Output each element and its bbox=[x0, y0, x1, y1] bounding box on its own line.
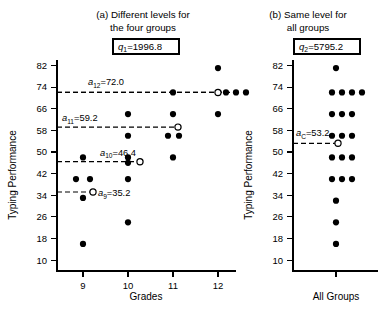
panel-b-y-tick-label: 82 bbox=[272, 60, 283, 71]
panel-b-data-point bbox=[339, 176, 345, 182]
panel-b-q-number: =5795.2 bbox=[308, 41, 343, 52]
panel-a-y-tick-label: 82 bbox=[36, 60, 47, 71]
panel-b-y-tick-label: 26 bbox=[272, 211, 283, 222]
panel-a-y-tick-label: 34 bbox=[36, 190, 47, 201]
panel-b-data-point bbox=[329, 154, 335, 160]
two-panel-dotplot-figure: (a) Different levels for the four groups… bbox=[0, 0, 382, 317]
panel-a-x-tick-label: 10 bbox=[123, 280, 134, 291]
panel-b-data-point bbox=[339, 133, 345, 139]
panel-a-group-mean-marker bbox=[90, 189, 96, 195]
panel-a-y-tick-label: 74 bbox=[36, 81, 47, 92]
panel-a-data-point bbox=[80, 154, 86, 160]
panel-a-ylabel: Typing Performance bbox=[7, 130, 18, 220]
figure-root: (a) Different levels for the four groups… bbox=[0, 0, 382, 317]
panel-b-data-point bbox=[333, 65, 339, 71]
panel-a-data-point bbox=[125, 111, 131, 117]
panel-b-title-line2: all groups bbox=[287, 22, 330, 33]
panel-b-y-tick-label: 10 bbox=[272, 255, 283, 266]
panel-b-data-point bbox=[329, 133, 335, 139]
panel-b-y-tick-label: 18 bbox=[272, 233, 283, 244]
panel-b-y-tick-label: 58 bbox=[272, 125, 283, 136]
panel-a-mean-label: a9=35.2 bbox=[98, 188, 130, 200]
panel-a-data-point bbox=[125, 219, 131, 225]
panel-b-data-point bbox=[339, 154, 345, 160]
panel-a-y-tick-label: 50 bbox=[36, 146, 47, 157]
panel-a-y-tick-label: 26 bbox=[36, 211, 47, 222]
panel-a-data-point bbox=[170, 111, 176, 117]
panel-a-data-point bbox=[170, 154, 176, 160]
panel-a-y-tick-label: 66 bbox=[36, 103, 47, 114]
panel-b-y-tick-label: 42 bbox=[272, 168, 283, 179]
panel-a-data-point bbox=[80, 241, 86, 247]
panel-a-data-point bbox=[215, 111, 221, 117]
panel-a-data-point bbox=[87, 176, 93, 182]
panel-a-group-mean-marker bbox=[215, 89, 221, 95]
panel-a-group-mean-marker bbox=[175, 124, 181, 130]
panel-a-y-tick-label: 42 bbox=[36, 168, 47, 179]
panel-b-data-point bbox=[333, 219, 339, 225]
panel-b-data-point bbox=[333, 198, 339, 204]
panel-a-q-number: =1996.8 bbox=[127, 41, 162, 52]
panel-b-data-point bbox=[333, 241, 339, 247]
panel-a-data-point bbox=[223, 89, 229, 95]
panel-a-q-box: q1=1996.8 bbox=[113, 39, 179, 54]
panel-b-data-point bbox=[349, 89, 355, 95]
panel-a-data-point bbox=[176, 133, 182, 139]
panel-a-data-point bbox=[73, 176, 79, 182]
panel-a-y-tick-label: 10 bbox=[36, 255, 47, 266]
panel-a-title-line2: the four groups bbox=[110, 22, 176, 33]
panel-b-y-tick-label: 34 bbox=[272, 190, 283, 201]
panel-a-data-point bbox=[125, 176, 131, 182]
panel-a-group-mean-marker bbox=[137, 159, 143, 165]
panel-b-data-point bbox=[349, 176, 355, 182]
panel-b-xlabel: All Groups bbox=[313, 291, 360, 302]
panel-a-data-point bbox=[80, 195, 86, 201]
panel-b-data-point bbox=[339, 111, 345, 117]
panel-b-data-point bbox=[329, 89, 335, 95]
panel-b-data-point bbox=[349, 133, 355, 139]
panel-b-q-box: q2=5795.2 bbox=[294, 39, 360, 54]
panel-a-y-tick-label: 58 bbox=[36, 125, 47, 136]
panel-a-x-tick-label: 11 bbox=[168, 280, 178, 291]
panel-a-data-point bbox=[165, 133, 171, 139]
panel-a-data-point bbox=[233, 89, 239, 95]
panel-b-y-tick-label: 50 bbox=[272, 146, 283, 157]
panel-b-data-point bbox=[329, 111, 335, 117]
panel-a-data-point bbox=[243, 89, 249, 95]
panel-b-data-point bbox=[329, 176, 335, 182]
panel-b-y-tick-label: 74 bbox=[272, 81, 283, 92]
panel-a-data-point bbox=[125, 133, 131, 139]
panel-a-data-point bbox=[215, 65, 221, 71]
panel-b-data-point bbox=[359, 89, 365, 95]
panel-b-mean-label-group: aC=53.2 bbox=[296, 128, 329, 140]
panel-a-data-point bbox=[125, 160, 131, 166]
panel-a-x-tick-label: 12 bbox=[213, 280, 224, 291]
panel-b-data-point bbox=[349, 111, 355, 117]
panel-b-mean-label: aC=53.2 bbox=[296, 128, 329, 140]
panel-a-x-tick-label: 9 bbox=[80, 280, 85, 291]
panel-b-title-line1: (b) Same level for bbox=[269, 9, 347, 20]
panel-b-data-point bbox=[339, 89, 345, 95]
panel-b-ylabel: Typing Performance bbox=[243, 130, 254, 220]
panel-b-data-point bbox=[349, 154, 355, 160]
panel-a-title-line1: (a) Different levels for bbox=[96, 9, 190, 20]
panel-a-y-tick-label: 18 bbox=[36, 233, 47, 244]
panel-a-xlabel: Grades bbox=[130, 291, 163, 302]
panel-a-data-point bbox=[170, 89, 176, 95]
panel-b-y-tick-label: 66 bbox=[272, 103, 283, 114]
panel-b-grand-mean-marker bbox=[335, 140, 341, 146]
